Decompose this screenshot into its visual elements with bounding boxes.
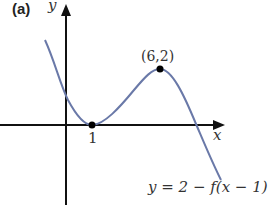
curve-label: y = 2 − f(x − 1) [147, 178, 268, 196]
maximum-point [157, 66, 164, 73]
curve-path [45, 40, 221, 180]
graph-figure: (a) y x 1 (6,2) y = 2 − f(x − 1) [0, 0, 269, 211]
x-tick-label: 1 [88, 129, 98, 147]
panel-label: (a) [12, 0, 30, 17]
point-label: (6,2) [141, 48, 174, 64]
y-axis-label: y [47, 0, 57, 14]
x-axis-label: x [213, 126, 222, 144]
y-axis-arrow-icon [61, 4, 71, 16]
minimum-point [89, 122, 96, 129]
